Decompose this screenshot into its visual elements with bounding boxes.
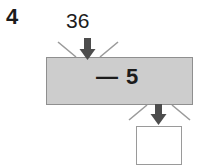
problem-number: 4 — [6, 6, 18, 28]
operation-label: — 5 — [96, 66, 139, 88]
input-value-label: 36 — [66, 10, 89, 31]
burst-line-icon — [172, 105, 190, 120]
answer-input-box[interactable] — [136, 126, 182, 165]
burst-line-icon — [58, 42, 76, 57]
burst-line-icon — [100, 42, 118, 57]
arrow-down-icon — [151, 104, 167, 125]
function-machine-worksheet: 4 36 — 5 — [0, 0, 203, 167]
burst-line-icon — [129, 105, 147, 120]
